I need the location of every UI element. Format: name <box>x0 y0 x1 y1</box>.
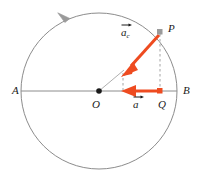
vector-a-arrow <box>121 85 159 97</box>
figure-canvas <box>0 0 206 191</box>
label-a-base: a <box>133 98 139 110</box>
label-ac-base: a <box>121 26 127 38</box>
label-A: A <box>12 85 19 96</box>
circular-motion-figure: A B O P Q ac a <box>0 0 206 191</box>
label-Q: Q <box>158 99 166 110</box>
label-vector-a: a <box>133 99 139 110</box>
point-marker-O <box>96 88 102 94</box>
label-O: O <box>92 99 100 110</box>
label-P: P <box>168 23 175 34</box>
label-ac-subscript: c <box>127 32 130 40</box>
vector-ac-arrow <box>121 35 159 77</box>
label-B: B <box>183 85 190 96</box>
label-vector-ac: ac <box>121 27 130 38</box>
point-marker-Q <box>157 88 163 94</box>
guide-line-O-to-ac-tip <box>99 70 124 91</box>
point-marker-P <box>157 29 163 35</box>
